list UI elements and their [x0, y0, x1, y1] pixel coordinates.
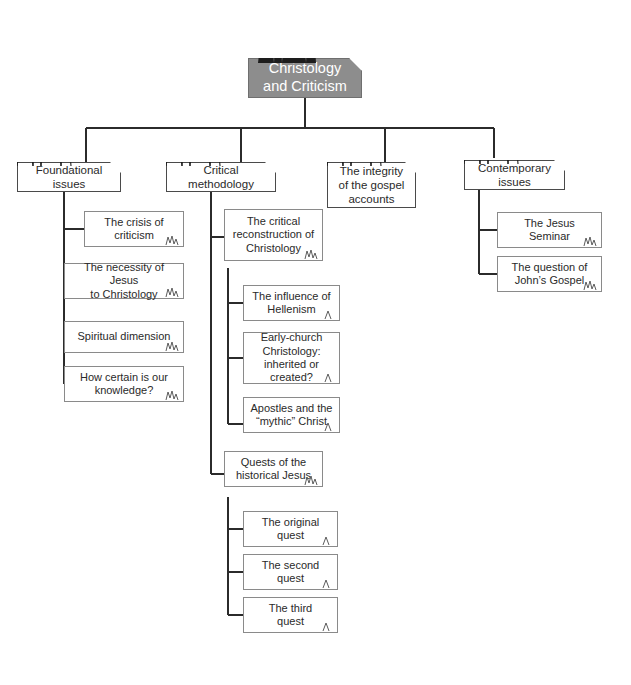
squiggle-icon	[318, 620, 334, 631]
leaf-quests-historical-jesus[interactable]: Quests of the historical Jesus	[224, 451, 323, 487]
leaf-label: Apostles and the “mythic” Christ	[245, 402, 339, 429]
leaf-spiritual-dimension[interactable]: Spiritual dimension	[64, 321, 184, 353]
leaf-original-quest[interactable]: The original quest	[243, 511, 338, 547]
leaf-label: The necessity of Jesus to Christology	[65, 261, 183, 301]
leaf-label: Spiritual dimension	[72, 330, 177, 343]
leaf-critical-reconstruction[interactable]: The critical reconstruction of Christolo…	[224, 209, 323, 261]
leaf-jesus-seminar[interactable]: The Jesus Seminar	[497, 212, 602, 248]
root-label: Christology and Criticism	[257, 60, 353, 95]
leaf-how-certain-knowledge[interactable]: How certain is our knowledge?	[64, 366, 184, 402]
leaf-early-church-christology[interactable]: Early-church Christology: inherited or c…	[243, 332, 340, 384]
leaf-apostles-mythic-christ[interactable]: Apostles and the “mythic” Christ	[243, 397, 340, 433]
cathedral-icon	[255, 29, 333, 63]
leaf-label: Quests of the historical Jesus	[230, 456, 317, 483]
leaf-label: The second quest	[256, 559, 325, 586]
leaf-label: The critical reconstruction of Christolo…	[227, 215, 320, 255]
leaf-crisis-of-criticism[interactable]: The crisis of criticism	[84, 211, 184, 247]
cathedral-icon	[324, 139, 386, 166]
cathedral-icon	[461, 137, 523, 164]
leaf-third-quest[interactable]: The third quest	[243, 597, 338, 633]
leaf-label: Early-church Christology: inherited or c…	[244, 331, 339, 385]
branch-integrity-gospel-accounts[interactable]: The integrity of the gospel accounts	[327, 162, 416, 208]
leaf-influence-of-hellenism[interactable]: The influence of Hellenism	[243, 285, 340, 321]
leaf-necessity-of-jesus[interactable]: The necessity of Jesus to Christology	[64, 263, 184, 299]
branch-label: Critical methodology	[182, 163, 260, 191]
leaf-label: The original quest	[256, 516, 325, 543]
leaf-label: The Jesus Seminar	[498, 217, 601, 244]
cathedral-icon	[14, 139, 76, 166]
leaf-second-quest[interactable]: The second quest	[243, 554, 338, 590]
root-node[interactable]: Christology and Criticism	[248, 58, 362, 98]
branch-critical-methodology[interactable]: Critical methodology	[166, 162, 276, 192]
diagram-canvas: Christology and Criticism Foundational i…	[0, 0, 631, 685]
leaf-question-johns-gospel[interactable]: The question of John’s Gospel	[497, 256, 602, 292]
leaf-label: The third quest	[263, 602, 318, 629]
branch-label: The integrity of the gospel accounts	[333, 164, 411, 206]
cathedral-icon	[163, 139, 225, 166]
branch-label: Foundational issues	[30, 163, 109, 191]
branch-contemporary-issues[interactable]: Contemporary issues	[464, 160, 565, 190]
leaf-label: The crisis of criticism	[98, 216, 169, 243]
leaf-label: The influence of Hellenism	[246, 290, 336, 317]
branch-foundational-issues[interactable]: Foundational issues	[17, 162, 121, 192]
branch-label: Contemporary issues	[472, 161, 557, 189]
leaf-label: The question of John’s Gospel	[506, 261, 594, 288]
leaf-label: How certain is our knowledge?	[74, 371, 174, 398]
